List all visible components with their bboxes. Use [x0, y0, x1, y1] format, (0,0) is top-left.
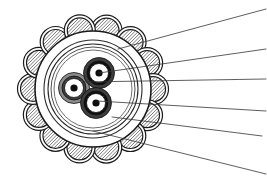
conductor-bottom: [81, 88, 112, 119]
conductor-core: [92, 99, 99, 106]
conductor-core: [70, 84, 77, 91]
cable-cross-section-figure: [0, 0, 267, 181]
cable-diagram-svg: [0, 0, 267, 181]
